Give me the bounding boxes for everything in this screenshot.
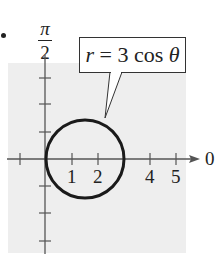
equation-r: r xyxy=(85,42,94,68)
polar-axis-label: 0 xyxy=(205,149,215,168)
equation-theta: θ xyxy=(169,42,180,68)
tick-label-4: 4 xyxy=(145,167,155,186)
polar-graph: π 2 xyxy=(0,0,219,257)
equation-callout: r = 3 cos θ xyxy=(79,37,186,73)
tick-label-1: 1 xyxy=(67,167,77,186)
callout-joint xyxy=(111,71,121,74)
tick-label-2: 2 xyxy=(93,167,103,186)
equation-body: = 3 cos xyxy=(94,42,169,68)
tick-label-5: 5 xyxy=(171,167,181,186)
